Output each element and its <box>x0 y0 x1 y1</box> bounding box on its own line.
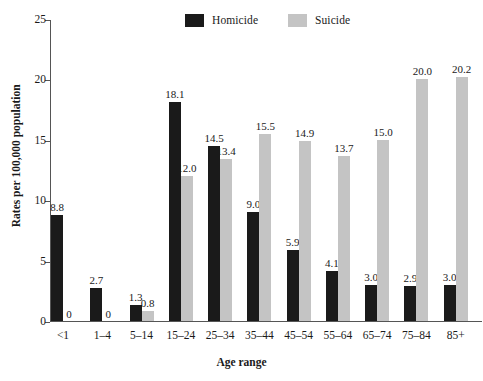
bar-value-label: 4.1 <box>325 258 339 269</box>
x-axis-title: Age range <box>0 357 483 369</box>
bar-value-label: 13.4 <box>216 146 235 157</box>
bar-value-label: 3.0 <box>364 272 378 283</box>
bar-value-label: 2.7 <box>89 275 103 286</box>
bars-layer: 8.802.701.30.818.112.014.513.49.015.55.9… <box>50 20 482 322</box>
bar-suicide: 14.9 <box>299 141 311 321</box>
x-tick-label: 45–54 <box>284 330 313 342</box>
x-tick-label: 5–14 <box>130 330 153 342</box>
bar-value-label: 18.1 <box>165 89 184 100</box>
bar-value-label: 20.2 <box>452 64 471 75</box>
bar-homicide: 2.7 <box>90 288 102 321</box>
bar-suicide: 13.7 <box>338 156 350 321</box>
bar-homicide: 9.0 <box>247 212 259 321</box>
bar-value-label: 14.9 <box>295 128 314 139</box>
x-tick-label: 75–84 <box>402 330 431 342</box>
bar-value-label: 15.5 <box>256 121 275 132</box>
x-tick-label: 65–74 <box>363 330 392 342</box>
bar-value-label: 8.8 <box>50 202 64 213</box>
bar-value-label: 15.0 <box>374 127 393 138</box>
y-tick-label: 10 <box>35 195 47 207</box>
bar-homicide: 4.1 <box>326 271 338 321</box>
bar-value-label: 13.7 <box>334 143 353 154</box>
y-tick-label: 20 <box>35 75 47 87</box>
x-tick-label: <1 <box>57 330 69 342</box>
bar-suicide: 13.4 <box>220 159 232 321</box>
bar-value-label: 20.0 <box>413 66 432 77</box>
bar-value-label: 0 <box>63 309 75 320</box>
bar-homicide: 18.1 <box>169 102 181 321</box>
bar-homicide: 8.8 <box>51 215 63 321</box>
y-axis-title: Rates per 100,000 population <box>11 56 23 256</box>
bar-value-label: 14.5 <box>204 133 223 144</box>
x-tick-label: 1–4 <box>94 330 111 342</box>
x-tick-label: 85+ <box>447 330 465 342</box>
bar-value-label: 2.9 <box>404 273 418 284</box>
bar-suicide: 20.2 <box>456 77 468 321</box>
bar-homicide: 14.5 <box>208 146 220 321</box>
x-tick-label: 55–64 <box>324 330 353 342</box>
bar-homicide: 3.0 <box>444 285 456 321</box>
bar-value-label: 0 <box>102 309 114 320</box>
bar-homicide: 2.9 <box>404 286 416 321</box>
bar-value-label: 0.8 <box>141 298 155 309</box>
bar-suicide: 12.0 <box>181 176 193 321</box>
bar-homicide: 3.0 <box>365 285 377 321</box>
x-tick-label: 35–44 <box>245 330 274 342</box>
y-tick-label: 15 <box>35 135 47 147</box>
bar-chart: Homicide Suicide 0510152025 8.802.701.30… <box>0 0 483 381</box>
bar-value-label: 9.0 <box>246 199 260 210</box>
bar-suicide: 15.0 <box>377 140 389 321</box>
bar-suicide: 0.8 <box>142 311 154 321</box>
plot-area: 0510152025 8.802.701.30.818.112.014.513.… <box>50 20 482 322</box>
bar-value-label: 3.0 <box>443 272 457 283</box>
x-tick-label: 25–34 <box>206 330 235 342</box>
y-tick-label: 25 <box>35 14 47 26</box>
x-axis-category-labels: <11–45–1415–2425–3435–4445–5455–6465–747… <box>50 330 482 346</box>
bar-suicide: 15.5 <box>259 134 271 321</box>
bar-homicide: 5.9 <box>287 250 299 321</box>
x-tick-label: 15–24 <box>166 330 195 342</box>
y-tick-label: 5 <box>40 256 46 268</box>
y-tick-label: 0 <box>40 316 46 328</box>
bar-suicide: 20.0 <box>416 79 428 321</box>
bar-value-label: 5.9 <box>286 237 300 248</box>
bar-value-label: 12.0 <box>177 163 196 174</box>
